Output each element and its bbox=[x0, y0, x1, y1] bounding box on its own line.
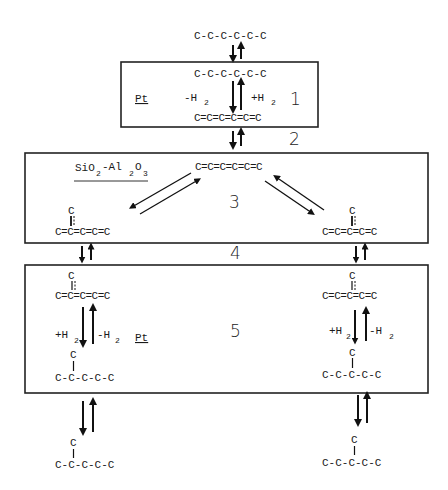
catalyst-sio2-al2o3: SiO 2 -Al 2 O 3 bbox=[74, 161, 148, 181]
svg-text:C: C bbox=[68, 270, 75, 282]
hydrogenation-label: +H 2 bbox=[251, 92, 276, 107]
svg-text:2: 2 bbox=[346, 332, 351, 341]
svg-text:C: C bbox=[349, 347, 356, 359]
catalyst-pt-5: Pt bbox=[135, 332, 148, 344]
svg-text:2: 2 bbox=[115, 336, 120, 345]
dehydrogenation-label-right: -H 2 bbox=[369, 325, 394, 341]
3-methylpentene-box2: C C=C=C=C=C bbox=[322, 205, 378, 238]
n-hexane-top: C-C-C-C-C-C bbox=[194, 30, 267, 42]
svg-text:C: C bbox=[349, 205, 356, 217]
dehydrogenation-label: -H 2 bbox=[184, 92, 209, 107]
svg-text:C-C-C-C-C: C-C-C-C-C bbox=[322, 457, 382, 469]
step-label-2: 2 bbox=[289, 129, 300, 149]
svg-text:O: O bbox=[135, 161, 142, 173]
svg-text:2: 2 bbox=[389, 332, 394, 341]
svg-text:C=C=C=C=C: C=C=C=C=C bbox=[55, 226, 111, 238]
2-methylpentene-box2: C C=C=C=C=C bbox=[55, 205, 111, 238]
dehydrogenation-label-left: -H 2 bbox=[97, 329, 120, 345]
svg-text:-H: -H bbox=[369, 325, 382, 337]
svg-text:2: 2 bbox=[74, 336, 79, 345]
svg-text:C-C-C-C-C: C-C-C-C-C bbox=[322, 369, 382, 381]
equilibrium-arrows-bottom-left bbox=[83, 401, 93, 432]
3-methylpentane-product: C C-C-C-C-C bbox=[322, 434, 382, 469]
step-label-4: 4 bbox=[230, 243, 241, 263]
svg-text:C: C bbox=[351, 434, 358, 446]
equilibrium-arrows-top bbox=[233, 45, 241, 59]
svg-text:3: 3 bbox=[143, 169, 148, 178]
reaction-scheme: C-C-C-C-C-C C-C-C-C-C-C Pt -H 2 +H 2 1 C… bbox=[0, 0, 448, 490]
2-methylpentene-box3: C C=C=C=C=C bbox=[55, 270, 111, 302]
svg-text:-H: -H bbox=[184, 92, 197, 104]
svg-text:C=C=C=C=C: C=C=C=C=C bbox=[322, 290, 378, 302]
2-methylpentane-product: C C-C-C-C-C bbox=[55, 437, 115, 471]
equilibrium-arrows-4-right bbox=[356, 246, 365, 260]
svg-text:+H: +H bbox=[55, 329, 68, 341]
equilibrium-arrows-bottom-right bbox=[358, 395, 367, 423]
step-label-3: 3 bbox=[229, 192, 240, 212]
svg-text:C-C-C-C-C: C-C-C-C-C bbox=[55, 459, 115, 471]
hexene-box1: C=C=C=C=C=C bbox=[194, 112, 262, 124]
svg-text:C: C bbox=[70, 349, 77, 361]
equilibrium-arrows-2 bbox=[233, 131, 241, 146]
svg-text:C=C=C=C=C: C=C=C=C=C bbox=[55, 290, 111, 302]
2-methylpentane-box3: C C-C-C-C-C bbox=[55, 349, 115, 384]
3-methylpentene-box3: C C=C=C=C=C bbox=[322, 270, 378, 302]
svg-text:-Al: -Al bbox=[102, 161, 122, 173]
hexene-center: C=C=C=C=C=C bbox=[195, 161, 263, 173]
svg-text:2: 2 bbox=[204, 98, 209, 107]
svg-text:2: 2 bbox=[271, 98, 276, 107]
svg-text:-H: -H bbox=[97, 329, 110, 341]
svg-text:+H: +H bbox=[251, 92, 264, 104]
catalyst-pt-1: Pt bbox=[135, 93, 148, 105]
hydrogenation-label-right: +H 2 bbox=[329, 325, 351, 341]
svg-text:C=C=C=C=C: C=C=C=C=C bbox=[322, 226, 378, 238]
svg-text:C: C bbox=[68, 205, 75, 217]
step-label-5: 5 bbox=[230, 321, 241, 341]
svg-text:2: 2 bbox=[96, 169, 101, 178]
step-label-1: 1 bbox=[290, 89, 301, 109]
svg-text:SiO: SiO bbox=[75, 162, 95, 174]
svg-text:+H: +H bbox=[329, 325, 342, 337]
equilibrium-arrows-4-left bbox=[82, 246, 91, 260]
hydrogenation-label-left: +H 2 bbox=[55, 329, 79, 345]
svg-text:C-C-C-C-C: C-C-C-C-C bbox=[55, 372, 115, 384]
3-methylpentane-box3: C C-C-C-C-C bbox=[322, 347, 382, 381]
svg-text:C: C bbox=[349, 270, 356, 282]
svg-text:2: 2 bbox=[129, 169, 134, 178]
n-hexane-box1: C-C-C-C-C-C bbox=[194, 68, 267, 80]
svg-text:C: C bbox=[70, 437, 77, 449]
